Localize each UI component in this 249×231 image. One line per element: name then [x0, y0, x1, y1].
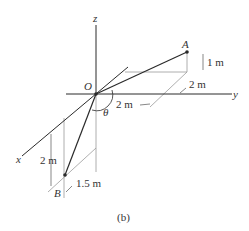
dim-a-x — [140, 104, 150, 105]
y-axis-label: y — [232, 88, 238, 100]
dim-label-a-x: 2 m — [116, 98, 133, 110]
a-diagonal-line — [150, 72, 187, 107]
axes — [22, 25, 232, 156]
point-a-label: A — [181, 38, 189, 50]
dim-label-b-depth: 2 m — [40, 154, 57, 166]
point-b-label: B — [54, 187, 61, 199]
dim-label-a-y: 2 m — [189, 78, 206, 90]
vector-oa — [96, 52, 187, 94]
point-a — [185, 50, 189, 54]
vector-ob — [65, 94, 96, 175]
dimension-lines — [51, 54, 203, 192]
dim-label-b-y: 1.5 m — [76, 177, 102, 189]
dim-a-y — [180, 88, 186, 93]
construction-lines — [48, 52, 187, 198]
origin-point — [94, 92, 98, 96]
figure-caption: (b) — [117, 211, 130, 224]
point-b — [63, 173, 67, 177]
vectors — [65, 52, 187, 175]
vector-diagram: z y x O A B θ 1 m 2 m 2 m 2 m 1.5 m (b) — [0, 0, 249, 231]
dim-label-a-height: 1 m — [207, 56, 224, 68]
x-axis-label: x — [15, 153, 21, 165]
origin-label: O — [84, 80, 92, 92]
z-axis-label: z — [92, 12, 98, 24]
dim-b-y — [66, 186, 72, 192]
x-axis — [22, 67, 128, 156]
theta-label: θ — [103, 106, 109, 118]
